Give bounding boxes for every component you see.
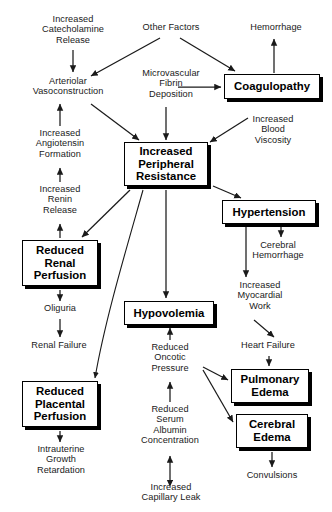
- node-cerebral_edema: Cerebral Edema: [236, 414, 308, 448]
- node-arteriolar: Arteriolar Vasoconstruction: [12, 76, 124, 97]
- node-renal_failure: Renal Failure: [18, 340, 100, 350]
- node-convulsions: Convulsions: [234, 470, 310, 480]
- node-pulm_edema: Pulmonary Edema: [231, 369, 309, 403]
- node-hemorrhage: Hemorrhage: [236, 22, 316, 32]
- node-cerebral_hem: Cerebral Hemorrhage: [240, 240, 316, 261]
- edge-myocardial-to-heart_failure: [254, 320, 274, 337]
- node-oliguria: Oliguria: [28, 303, 92, 313]
- node-renal_perf: Reduced Renal Perfusion: [22, 240, 98, 286]
- node-ipr: Increased Peripheral Resistance: [124, 142, 208, 186]
- node-myocardial: Increased Myocardial Work: [224, 280, 296, 311]
- node-placental_perf: Reduced Placental Perfusion: [22, 381, 98, 427]
- flowchart-canvas: Increased Catecholamine ReleaseOther Fac…: [0, 0, 332, 512]
- edge-ipr-to-placental_perf: [95, 190, 143, 378]
- node-hypovolemia: Hypovolemia: [124, 301, 214, 325]
- node-blood_viscosity: Increased Blood Viscosity: [240, 114, 306, 145]
- node-coagulopathy: Coagulopathy: [224, 74, 320, 99]
- node-oncotic: Reduced Oncotic Pressure: [137, 342, 203, 373]
- node-microvascular: Microvascular Fibrin Deposition: [128, 68, 214, 99]
- edge-ipr-to-hypertension: [213, 186, 241, 198]
- node-heart_failure: Heart Failure: [227, 340, 309, 350]
- node-iugr: Intrauterine Growth Retardation: [20, 444, 102, 475]
- node-hypertension: Hypertension: [222, 200, 316, 224]
- node-albumin: Reduced Serum Albumin Concentration: [129, 404, 211, 445]
- edge-oncotic-to-pulm_edema: [203, 367, 228, 380]
- edge-other_factors-to-coagulopathy: [180, 38, 235, 71]
- node-capillary_leak: Increased Capillary Leak: [126, 482, 216, 503]
- node-catecholamine: Increased Catecholamine Release: [21, 14, 125, 45]
- node-renin: Increased Renin Release: [16, 184, 104, 215]
- node-angiotensin: Increased Angiotensin Formation: [14, 128, 106, 159]
- node-other_factors: Other Factors: [128, 22, 214, 32]
